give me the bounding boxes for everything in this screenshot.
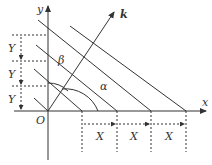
- y-spacing-label: Y: [8, 93, 17, 106]
- y-spacing-label: Y: [8, 42, 17, 55]
- x-spacing-label: X: [95, 130, 105, 143]
- x-axis-label: x: [202, 96, 209, 109]
- wavefront-line: [34, 98, 48, 111]
- origin-label: O: [36, 114, 45, 127]
- wavefront-diagram: x y O k β α Y Y Y X X X: [0, 0, 212, 165]
- alpha-arc: [62, 89, 98, 111]
- x-spacing-label: X: [129, 130, 139, 143]
- wavefront-line: [70, 26, 186, 111]
- beta-label: β: [57, 54, 64, 67]
- x-spacing-label: X: [164, 130, 174, 143]
- k-label: k: [120, 8, 128, 21]
- y-spacing-label: Y: [8, 68, 17, 81]
- alpha-label: α: [100, 80, 108, 93]
- y-axis-label: y: [36, 3, 44, 16]
- wavefront-line: [38, 20, 151, 111]
